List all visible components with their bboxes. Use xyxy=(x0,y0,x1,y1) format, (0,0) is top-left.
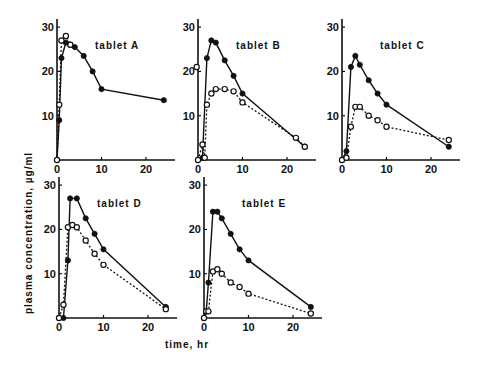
filled-data-point xyxy=(353,53,358,58)
x-tick-label: 0 xyxy=(339,163,345,175)
x-tick-label: 10 xyxy=(97,321,109,333)
open-series-line xyxy=(59,225,166,318)
filled-data-point xyxy=(213,40,218,45)
chart-figure: 01020102030tablet A01020102030tablet B01… xyxy=(0,0,486,367)
filled-data-point xyxy=(231,73,236,78)
open-data-point xyxy=(219,271,224,276)
filled-data-point xyxy=(446,144,451,149)
filled-data-point xyxy=(161,98,166,103)
y-tick-label: 20 xyxy=(44,223,56,235)
filled-data-point xyxy=(99,87,104,92)
open-data-point xyxy=(68,42,73,47)
y-tick-label: 20 xyxy=(183,65,195,77)
open-data-point xyxy=(209,91,214,96)
open-data-point xyxy=(344,155,349,160)
filled-data-point xyxy=(101,247,106,252)
open-data-point xyxy=(202,155,207,160)
open-data-point xyxy=(357,104,362,109)
open-data-point xyxy=(213,87,218,92)
open-data-point xyxy=(206,309,211,314)
filled-series-line xyxy=(198,40,305,160)
open-data-point xyxy=(384,124,389,129)
y-tick-label: 30 xyxy=(44,179,56,191)
filled-data-point xyxy=(237,247,242,252)
open-data-point xyxy=(83,238,88,243)
open-data-point xyxy=(446,137,451,142)
open-data-point xyxy=(163,307,168,312)
open-series-line xyxy=(57,36,70,160)
panel-tablet-D: 01020102030tablet D xyxy=(44,177,177,333)
open-data-point xyxy=(54,157,59,162)
open-data-point xyxy=(246,291,251,296)
filled-data-point xyxy=(308,304,313,309)
filled-data-point xyxy=(206,280,211,285)
open-data-point xyxy=(231,89,236,94)
open-data-point xyxy=(308,311,313,316)
y-tick-label: 10 xyxy=(189,268,201,280)
filled-data-point xyxy=(228,231,233,236)
filled-data-point xyxy=(240,91,245,96)
open-data-point xyxy=(237,284,242,289)
filled-data-point xyxy=(219,216,224,221)
x-axis-label: time, hr xyxy=(165,339,209,350)
open-data-point xyxy=(302,144,307,149)
panel-title: tablet E xyxy=(242,198,286,209)
y-tick-label: 30 xyxy=(327,21,339,33)
x-tick-label: 20 xyxy=(287,321,299,333)
open-data-point xyxy=(61,302,66,307)
open-series-line xyxy=(198,89,305,160)
x-tick-label: 0 xyxy=(56,321,62,333)
x-tick-label: 10 xyxy=(236,163,248,175)
x-tick-label: 20 xyxy=(281,163,293,175)
panel-title: tablet A xyxy=(95,40,139,51)
x-tick-label: 0 xyxy=(54,163,60,175)
filled-data-point xyxy=(246,258,251,263)
open-data-point xyxy=(375,118,380,123)
filled-data-point xyxy=(375,91,380,96)
open-data-point xyxy=(215,267,220,272)
y-axis-label: plasma concentration, µg/ml xyxy=(23,152,34,314)
open-data-point xyxy=(92,251,97,256)
filled-data-point xyxy=(74,196,79,201)
y-tick-label: 10 xyxy=(183,110,195,122)
open-data-point xyxy=(366,113,371,118)
filled-data-point xyxy=(222,58,227,63)
x-tick-label: 20 xyxy=(140,163,152,175)
y-tick-label: 20 xyxy=(189,223,201,235)
filled-data-point xyxy=(366,78,371,83)
open-data-point xyxy=(348,124,353,129)
y-tick-label: 10 xyxy=(42,110,54,122)
open-data-point xyxy=(56,315,61,320)
open-data-point xyxy=(63,33,68,38)
filled-data-point xyxy=(215,209,220,214)
filled-series-line xyxy=(57,43,164,160)
filled-data-point xyxy=(68,196,73,201)
x-tick-label: 20 xyxy=(425,163,437,175)
panel-tablet-B: 01020102030tablet B xyxy=(183,19,316,175)
filled-data-point xyxy=(81,53,86,58)
panels: 01020102030tablet A01020102030tablet B01… xyxy=(42,19,460,333)
x-tick-label: 0 xyxy=(201,321,207,333)
filled-series-line xyxy=(59,198,166,318)
filled-data-point xyxy=(83,216,88,221)
y-tick-label: 30 xyxy=(42,21,54,33)
filled-series-line xyxy=(204,212,311,318)
y-tick-label: 30 xyxy=(183,21,195,33)
filled-data-point xyxy=(357,62,362,67)
open-data-point xyxy=(200,142,205,147)
y-tick-label: 10 xyxy=(44,268,56,280)
filled-data-point xyxy=(204,56,209,61)
open-data-point xyxy=(228,280,233,285)
x-tick-label: 10 xyxy=(380,163,392,175)
open-data-point xyxy=(195,157,200,162)
panel-tablet-A: 01020102030tablet A xyxy=(42,19,175,175)
panel-title: tablet C xyxy=(380,40,425,51)
y-tick-label: 30 xyxy=(189,179,201,191)
open-data-point xyxy=(240,100,245,105)
open-series-line xyxy=(204,269,311,318)
open-series-line xyxy=(342,107,449,160)
y-tick-label: 20 xyxy=(42,65,54,77)
panel-tablet-C: 01020102030tablet C xyxy=(327,19,460,175)
open-data-point xyxy=(222,87,227,92)
panel-title: tablet D xyxy=(97,198,142,209)
